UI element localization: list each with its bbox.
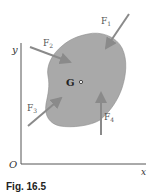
figure-caption: Fig. 16.5 bbox=[6, 181, 46, 192]
rigid-body-diagram: y x O G F1 F2 F3 F4 bbox=[0, 0, 156, 195]
y-axis-label: y bbox=[11, 44, 18, 55]
mass-center-marker bbox=[79, 80, 82, 83]
x-axis-label: x bbox=[141, 167, 146, 177]
force-label-f4: F4 bbox=[104, 112, 114, 123]
force-label-f2: F2 bbox=[43, 38, 53, 49]
rigid-body-shape bbox=[46, 33, 126, 127]
origin-label: O bbox=[9, 159, 17, 170]
force-label-f1: F1 bbox=[101, 16, 111, 27]
force-label-f3: F3 bbox=[27, 103, 37, 114]
mass-center-label: G bbox=[66, 77, 75, 88]
